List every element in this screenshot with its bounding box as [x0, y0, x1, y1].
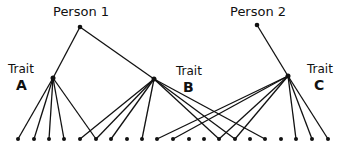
item-node — [171, 137, 175, 141]
item-node — [202, 137, 206, 141]
person-trait-edge — [80, 27, 154, 79]
item-node — [32, 137, 36, 141]
item-node — [155, 137, 159, 141]
item-node — [279, 137, 283, 141]
trait-node-a — [51, 76, 56, 81]
item-node — [16, 137, 20, 141]
trait-item-edge — [235, 76, 288, 139]
trait-item-edge — [154, 79, 235, 139]
item-node — [78, 137, 82, 141]
item-node — [187, 137, 191, 141]
item-node — [233, 137, 237, 141]
item-node — [94, 137, 98, 141]
person-node-2 — [255, 23, 260, 28]
item-node — [140, 137, 144, 141]
item-node — [62, 137, 66, 141]
item-node — [263, 137, 267, 141]
trait-item-edge — [53, 78, 96, 139]
trait-node-c — [286, 74, 291, 79]
item-node — [248, 137, 252, 141]
trait-item-edge — [53, 78, 64, 139]
item-node — [109, 137, 113, 141]
person-node-1 — [78, 25, 83, 30]
trait-a-label: Trait — [8, 62, 34, 76]
item-node — [125, 137, 129, 141]
trait-item-edge — [96, 79, 154, 139]
person-trait-edge — [53, 27, 80, 78]
trait-c-letter: C — [314, 77, 324, 93]
trait-c-label: Trait — [307, 62, 333, 76]
trait-b-label: Trait — [176, 64, 202, 78]
trait-b-letter: B — [183, 79, 194, 95]
trait-diagram — [0, 0, 344, 152]
edges — [18, 25, 328, 139]
person-1-label: Person 1 — [53, 4, 109, 19]
item-node — [217, 137, 221, 141]
person-2-label: Person 2 — [230, 4, 286, 19]
item-node — [310, 137, 314, 141]
person-trait-edge — [257, 25, 288, 76]
item-node — [326, 137, 330, 141]
trait-node-b — [152, 77, 157, 82]
trait-a-letter: A — [16, 77, 27, 93]
item-node — [47, 137, 51, 141]
item-node — [294, 137, 298, 141]
